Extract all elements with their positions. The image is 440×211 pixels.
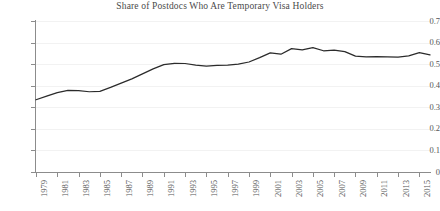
x-axis-tick-label: 1997	[231, 180, 240, 197]
x-axis-tick	[142, 173, 143, 177]
x-axis-tick	[249, 173, 250, 177]
chart-title: Share of Postdocs Who Are Temporary Visa…	[0, 1, 440, 11]
x-axis-tick-label: 2007	[338, 180, 347, 197]
x-axis-tick-label: 1983	[82, 180, 91, 197]
x-axis-tick	[419, 173, 420, 177]
x-axis-tick	[36, 173, 37, 177]
x-axis-tick-label: 2001	[274, 180, 283, 197]
y-axis-tick	[31, 129, 36, 130]
gridline	[36, 43, 430, 44]
chart-container: Share of Postdocs Who Are Temporary Visa…	[0, 0, 440, 211]
y-axis-tick	[31, 86, 36, 87]
y-axis-tick-label: 0.7	[411, 17, 440, 26]
x-axis-tick	[377, 173, 378, 177]
x-axis-tick-label: 1999	[252, 180, 261, 197]
gridline	[36, 64, 430, 65]
y-axis-tick-label: 0.1	[411, 146, 440, 155]
x-axis-tick	[164, 173, 165, 177]
x-axis-tick	[398, 173, 399, 177]
x-axis-tick-label: 1995	[210, 180, 219, 197]
series-line-temporary-visa-share	[36, 48, 430, 100]
y-axis-tick	[31, 64, 36, 65]
x-axis-tick-label: 1985	[103, 180, 112, 197]
x-axis-tick-label: 1993	[189, 180, 198, 197]
x-axis-tick	[334, 173, 335, 177]
x-axis-tick-label: 1991	[167, 180, 176, 197]
x-axis-tick-label: 1981	[61, 180, 70, 197]
x-axis-tick	[206, 173, 207, 177]
x-axis-tick	[57, 173, 58, 177]
x-axis-tick	[185, 173, 186, 177]
x-axis-tick-label: 2005	[316, 180, 325, 197]
x-axis-tick-label: 2009	[359, 180, 368, 197]
gridline	[36, 150, 430, 151]
y-axis-tick-label: 0.6	[411, 38, 440, 47]
x-axis-tick	[100, 173, 101, 177]
gridline	[36, 129, 430, 130]
y-axis-tick-label: 0.3	[411, 103, 440, 112]
x-axis-tick-label: 1979	[40, 180, 49, 197]
x-axis-tick	[270, 173, 271, 177]
gridline	[36, 21, 430, 22]
x-axis-tick	[292, 173, 293, 177]
y-axis-tick	[31, 21, 36, 22]
x-axis-tick-label: 2011	[380, 180, 389, 197]
y-axis-tick-label: 0	[411, 168, 440, 177]
x-axis-tick	[313, 173, 314, 177]
y-axis-tick-label: 0.2	[411, 124, 440, 133]
y-axis-tick	[31, 43, 36, 44]
y-axis-tick-label: 0.4	[411, 81, 440, 90]
x-axis-tick	[355, 173, 356, 177]
x-axis-tick-label: 2003	[295, 180, 304, 197]
x-axis-tick-label: 2013	[402, 180, 411, 197]
y-axis-tick	[31, 150, 36, 151]
y-axis-tick	[31, 107, 36, 108]
x-axis-tick	[121, 173, 122, 177]
gridline	[36, 86, 430, 87]
x-axis-line	[35, 172, 431, 173]
y-axis-tick-label: 0.5	[411, 60, 440, 69]
x-axis-tick	[228, 173, 229, 177]
x-axis-tick-label: 1989	[146, 180, 155, 197]
gridline	[36, 107, 430, 108]
x-axis-tick-label: 1987	[125, 180, 134, 197]
x-axis-tick-label: 2015	[423, 180, 432, 197]
x-axis-tick	[79, 173, 80, 177]
